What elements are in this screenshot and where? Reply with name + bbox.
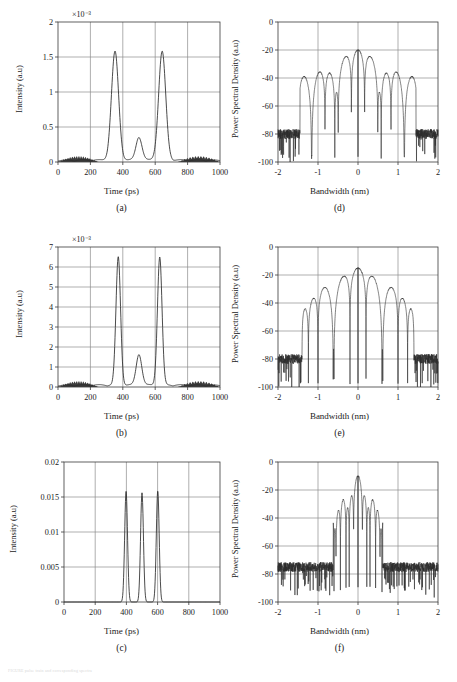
svg-text:200: 200 — [84, 393, 96, 402]
figure-row-1: Intensity (a.u) ×10⁻³ 00.511.52 02004006… — [0, 8, 457, 223]
svg-text:600: 600 — [149, 168, 161, 177]
svg-text:-100: -100 — [258, 383, 273, 392]
svg-text:0.5: 0.5 — [43, 123, 53, 132]
svg-text:1.5: 1.5 — [43, 53, 53, 62]
svg-text:-80: -80 — [262, 130, 273, 139]
svg-text:5: 5 — [49, 283, 53, 292]
panel-d-xlabel: Bandwidth (nm) — [232, 186, 447, 196]
svg-text:0: 0 — [62, 608, 66, 617]
panel-e-label: (e) — [232, 428, 447, 438]
svg-text:-60: -60 — [262, 102, 273, 111]
svg-text:7: 7 — [49, 243, 53, 252]
figure-row-2: Intensity (a.u) ×10⁻³ 01234567 020040060… — [0, 233, 457, 448]
svg-text:-1: -1 — [315, 168, 322, 177]
svg-text:-60: -60 — [262, 542, 273, 551]
svg-text:-40: -40 — [262, 74, 273, 83]
svg-text:1: 1 — [396, 168, 400, 177]
svg-text:1000: 1000 — [212, 168, 228, 177]
svg-text:0.01: 0.01 — [45, 528, 59, 537]
svg-text:400: 400 — [120, 608, 132, 617]
panel-a-plot: 00.511.52 02004006008001000 — [14, 8, 229, 203]
svg-text:0: 0 — [55, 598, 59, 607]
svg-text:1: 1 — [396, 393, 400, 402]
panel-c-plot: 00.0050.010.0150.02 02004006008001000 — [14, 448, 229, 643]
panel-d-plot: 0-20-40-60-80-100 -2-1012 — [232, 8, 447, 203]
svg-text:-100: -100 — [258, 158, 273, 167]
panel-e-plot: 0-20-40-60-80-100 -2-1012 — [232, 233, 447, 428]
svg-text:1: 1 — [396, 608, 400, 617]
svg-text:-2: -2 — [275, 168, 282, 177]
svg-text:-1: -1 — [315, 608, 322, 617]
svg-text:-20: -20 — [262, 271, 273, 280]
figure-row-3: Intensity (a.u) 00.0050.010.0150.02 0200… — [0, 448, 457, 663]
svg-text:0: 0 — [356, 608, 360, 617]
svg-text:0.015: 0.015 — [41, 493, 59, 502]
svg-text:0: 0 — [49, 158, 53, 167]
svg-text:800: 800 — [183, 608, 195, 617]
panel-b-plot: 01234567 02004006008001000 — [14, 233, 229, 428]
svg-text:2: 2 — [436, 393, 440, 402]
svg-text:2: 2 — [436, 608, 440, 617]
panel-a: Intensity (a.u) ×10⁻³ 00.511.52 02004006… — [14, 8, 229, 223]
panel-f: Power Spectral Density (a.u) 0-20-40-60-… — [232, 448, 447, 663]
svg-text:-40: -40 — [262, 514, 273, 523]
svg-text:-2: -2 — [275, 608, 282, 617]
svg-text:0: 0 — [56, 393, 60, 402]
svg-text:600: 600 — [151, 608, 163, 617]
panel-f-label: (f) — [232, 643, 447, 653]
svg-text:-80: -80 — [262, 355, 273, 364]
svg-text:0.02: 0.02 — [45, 458, 59, 467]
svg-text:200: 200 — [89, 608, 101, 617]
svg-text:0: 0 — [269, 243, 273, 252]
svg-text:0: 0 — [49, 383, 53, 392]
svg-text:2: 2 — [49, 343, 53, 352]
panel-c-xlabel: Time (ps) — [14, 626, 229, 636]
panel-d-label: (d) — [232, 203, 447, 213]
panel-b-xlabel: Time (ps) — [14, 411, 229, 421]
svg-text:400: 400 — [117, 393, 129, 402]
panel-d: Power Spectral Density (a.u) 0-20-40-60-… — [232, 8, 447, 223]
svg-text:2: 2 — [49, 18, 53, 27]
svg-text:-20: -20 — [262, 486, 273, 495]
svg-text:0: 0 — [356, 393, 360, 402]
svg-text:400: 400 — [117, 168, 129, 177]
panel-f-plot: 0-20-40-60-80-100 -2-1012 — [232, 448, 447, 643]
panel-b: Intensity (a.u) ×10⁻³ 01234567 020040060… — [14, 233, 229, 448]
svg-text:-80: -80 — [262, 570, 273, 579]
svg-text:600: 600 — [149, 393, 161, 402]
panel-a-xlabel: Time (ps) — [14, 186, 229, 196]
figure-caption: FIGURE pulse train and corresponding spe… — [8, 668, 92, 673]
panel-c-label: (c) — [14, 643, 229, 653]
svg-text:3: 3 — [49, 323, 53, 332]
svg-text:-60: -60 — [262, 327, 273, 336]
panel-e-xlabel: Bandwidth (nm) — [232, 411, 447, 421]
svg-text:-100: -100 — [258, 598, 273, 607]
svg-text:0: 0 — [356, 168, 360, 177]
svg-text:-20: -20 — [262, 46, 273, 55]
svg-text:0: 0 — [269, 18, 273, 27]
svg-text:1: 1 — [49, 363, 53, 372]
panel-f-xlabel: Bandwidth (nm) — [232, 626, 447, 636]
svg-text:0: 0 — [56, 168, 60, 177]
svg-text:0.005: 0.005 — [41, 563, 59, 572]
panel-a-label: (a) — [14, 203, 229, 213]
svg-text:4: 4 — [49, 303, 53, 312]
svg-text:-40: -40 — [262, 299, 273, 308]
svg-text:6: 6 — [49, 263, 53, 272]
svg-text:800: 800 — [181, 168, 193, 177]
panel-e: Power Spectral Density (a.u) 0-20-40-60-… — [232, 233, 447, 448]
svg-text:1000: 1000 — [212, 608, 228, 617]
svg-text:0: 0 — [269, 458, 273, 467]
svg-text:1000: 1000 — [212, 393, 228, 402]
svg-text:-2: -2 — [275, 393, 282, 402]
panel-c: Intensity (a.u) 00.0050.010.0150.02 0200… — [14, 448, 229, 663]
svg-text:-1: -1 — [315, 393, 322, 402]
svg-text:2: 2 — [436, 168, 440, 177]
panel-b-label: (b) — [14, 428, 229, 438]
svg-text:800: 800 — [181, 393, 193, 402]
svg-text:200: 200 — [84, 168, 96, 177]
figure-panel-grid: Intensity (a.u) ×10⁻³ 00.511.52 02004006… — [0, 0, 457, 682]
svg-text:1: 1 — [49, 88, 53, 97]
